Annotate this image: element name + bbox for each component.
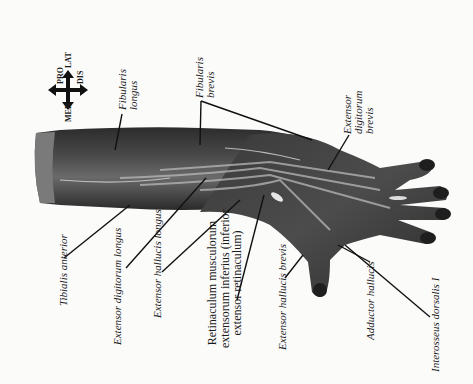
label-fibularis-brevis: Fibularis brevis <box>194 40 216 98</box>
compass-pro: PRO <box>56 67 65 84</box>
anatomy-figure: PRO DIS MED LAT Fibularis longus Fibular… <box>0 0 473 384</box>
orientation-compass: PRO DIS MED LAT <box>40 62 96 118</box>
label-tibialis-anterior: Tibialis anterior <box>58 234 69 306</box>
label-retinaculum: Retinaculum musculorum extensorum inferi… <box>206 218 244 348</box>
compass-lat: LAT <box>64 52 73 68</box>
label-extensor-hallucis-brevis: Extensor hallucis brevis <box>277 244 288 350</box>
label-extensor-digitorum-longus: Extensor digitorum longus <box>112 228 123 345</box>
label-adductor-hallucis: Adductor hallucis <box>365 261 376 340</box>
label-extensor-digitorum-brevis: Extensor digitorum brevis <box>342 74 375 134</box>
compass-med: MED <box>64 103 73 122</box>
compass-dis: DIS <box>76 71 85 84</box>
label-interosseus-dorsalis: Interosseus dorsalis I <box>430 278 441 372</box>
label-fibularis-longus: Fibularis longus <box>117 50 139 110</box>
label-extensor-hallucis-longus: Extensor hallucis longus <box>152 209 163 318</box>
